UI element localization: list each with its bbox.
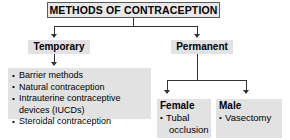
node-permanent-label: Permanent (176, 41, 228, 52)
node-temporary-label: Temporary (34, 41, 85, 52)
list-item: Barrier methods (12, 70, 148, 82)
temporary-methods-items: Barrier methods Natural contraception In… (12, 70, 148, 128)
connector-level1-bus (54, 26, 197, 27)
list-item: Natural contraception (12, 82, 148, 94)
list-item-text: Tubal (166, 112, 189, 123)
flowchart-title-box: METHODS OF CONTRACEPTION (47, 2, 220, 18)
arrowhead-to-female-icon (164, 90, 170, 94)
list-item: Intrauterine contraceptive devices (IUCD… (12, 93, 148, 116)
node-permanent: Permanent (171, 40, 233, 54)
list-item: Steroidal contraception (12, 116, 148, 128)
list-item-text: Natural contraception (19, 82, 105, 92)
list-item-text-continuation: devices (IUCDs) (19, 105, 148, 117)
node-male: Male Vasectomy (216, 99, 282, 138)
list-item-text: Intrauterine contraceptive (19, 93, 121, 103)
connector-level2-bus (167, 80, 247, 81)
arrowhead-to-permanent-icon (194, 34, 200, 38)
list-item-text: Vasectomy (225, 112, 271, 123)
node-female-label: Female (160, 100, 209, 112)
arrowhead-to-temporary-icon (51, 34, 57, 38)
list-item-text: Barrier methods (19, 70, 83, 80)
node-female: Female Tubal occlusion (157, 99, 211, 138)
male-methods-items: Vasectomy (219, 112, 280, 124)
list-item: Vasectomy (219, 112, 280, 124)
list-item-text-continuation: occlusion (166, 124, 209, 136)
contraception-methods-flowchart: METHODS OF CONTRACEPTION Temporary Barri… (0, 0, 290, 140)
connector-permanent-stem (197, 54, 198, 80)
connector-title-stem (133, 18, 134, 26)
female-methods-items: Tubal occlusion (160, 112, 209, 135)
arrowhead-to-temporary-list-icon (51, 62, 57, 66)
node-temporary-methods-list: Barrier methods Natural contraception In… (8, 68, 151, 119)
flowchart-title-text: METHODS OF CONTRACEPTION (49, 4, 217, 16)
list-item: Tubal occlusion (160, 112, 209, 135)
node-temporary: Temporary (28, 40, 90, 54)
list-item-text: Steroidal contraception (19, 116, 111, 126)
node-male-label: Male (219, 100, 280, 112)
arrowhead-to-male-icon (243, 90, 249, 94)
